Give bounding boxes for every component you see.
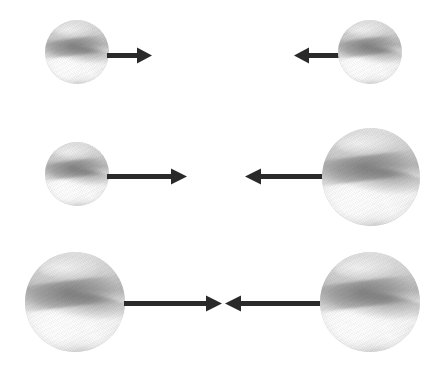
sphere-row2-right (322, 128, 420, 226)
sphere-edge (338, 20, 402, 84)
arrow-row2-left-rightward (107, 167, 188, 186)
arrow-row2-right-leftward (244, 167, 325, 186)
arrow-row1-left-rightward (107, 46, 153, 65)
sphere-edge (320, 252, 420, 352)
sphere-edge (25, 252, 125, 352)
sphere-row2-left (45, 142, 109, 206)
sphere-row1-right (338, 20, 402, 84)
sphere-edge (322, 128, 420, 226)
sphere-row3-left (25, 252, 125, 352)
sphere-edge (45, 20, 109, 84)
arrow-row3-right-leftward (224, 294, 323, 313)
arrow-row1-right-leftward (293, 46, 339, 65)
sphere-edge (45, 142, 109, 206)
sphere-row1-left (45, 20, 109, 84)
arrow-row3-left-rightward (124, 294, 223, 313)
collision-diagram (0, 0, 441, 375)
sphere-row3-right (320, 252, 420, 352)
